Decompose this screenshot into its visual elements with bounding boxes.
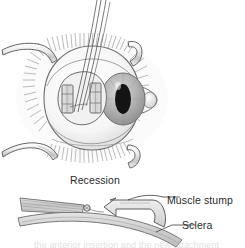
lower-lid-hook <box>127 145 140 168</box>
suture-knot <box>84 205 104 212</box>
muscle-pad-right <box>90 83 101 113</box>
figure-root: Recession Muscle stump Sclera the anteri… <box>0 0 245 248</box>
recession-illustration <box>0 0 245 248</box>
label-muscle-stump: Muscle stump <box>167 194 233 206</box>
rectus-muscle <box>20 198 84 214</box>
muscle-pad-left <box>62 85 73 113</box>
leader-line-muscle-stump <box>128 195 163 200</box>
caption-cutoff-text: the anterior insertion and the new attac… <box>34 240 219 248</box>
corneal-light-reflex <box>115 82 121 90</box>
label-sclera: Sclera <box>182 219 212 231</box>
anterior-view-of-eye <box>2 0 168 168</box>
label-recession: Recession <box>70 174 120 186</box>
